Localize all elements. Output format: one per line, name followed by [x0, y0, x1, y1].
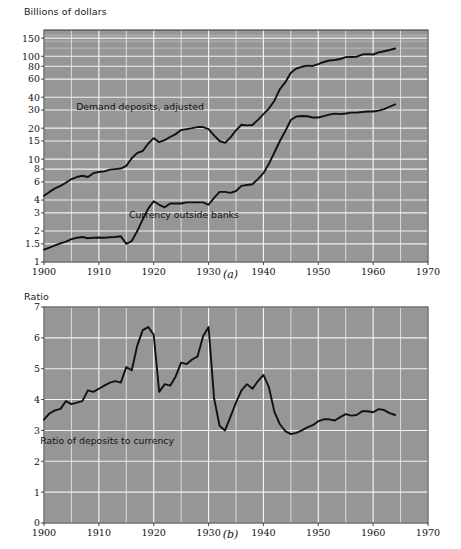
panel-a-axis-title: Billions of dollars: [24, 6, 107, 17]
y-tick-label: 4: [34, 194, 40, 205]
y-tick-label: 60: [28, 73, 40, 84]
y-tick-label: 150: [22, 33, 40, 44]
y-tick-label: 7: [34, 301, 40, 312]
y-tick-label: 10: [28, 154, 40, 165]
panel-a-caption: (a): [0, 268, 461, 281]
y-tick-label: 30: [28, 104, 40, 115]
series-label: Currency outside banks: [129, 209, 239, 220]
y-tick-label: 1: [34, 487, 40, 498]
y-tick-label: 1.5: [25, 238, 40, 249]
panel-b: Ratio 0123456719001910192019301940195019…: [0, 285, 461, 549]
y-tick-label: 4: [34, 394, 40, 405]
y-tick-label: 100: [22, 51, 40, 62]
panel-b-axis-title: Ratio: [24, 291, 49, 302]
chart-a-svg: 11.5234681015203040608010015019001910192…: [0, 0, 461, 285]
y-tick-label: 3: [34, 425, 40, 436]
y-tick-label: 40: [28, 92, 40, 103]
y-tick-label: 15: [28, 135, 40, 146]
y-tick-label: 8: [34, 163, 40, 174]
y-tick-label: 80: [28, 61, 40, 72]
series-label: Demand deposits, adjusted: [76, 101, 204, 112]
panel-b-caption: (b): [0, 528, 461, 541]
chart-b-svg: 0123456719001910192019301940195019601970…: [0, 285, 461, 549]
panel-a: Billions of dollars 11.52346810152030406…: [0, 0, 461, 285]
y-tick-label: 6: [34, 332, 40, 343]
y-tick-label: 2: [34, 225, 40, 236]
y-tick-label: 5: [34, 363, 40, 374]
y-tick-label: 2: [34, 456, 40, 467]
y-tick-label: 3: [34, 207, 40, 218]
series-label: Ratio of deposits to currency: [40, 435, 174, 446]
figure-root: Billions of dollars 11.52346810152030406…: [0, 0, 461, 549]
y-tick-label: 20: [28, 123, 40, 134]
y-tick-label: 6: [34, 176, 40, 187]
